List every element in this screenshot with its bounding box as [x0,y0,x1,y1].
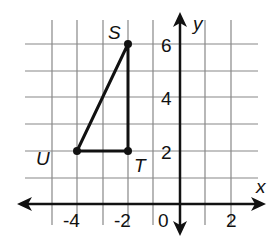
y-tick-4: 4 [161,88,172,109]
x-tick-neg4: -4 [63,210,80,231]
x-tick-neg2: -2 [114,210,131,231]
x-tick-2: 2 [226,210,237,231]
y-tick-2: 2 [161,142,172,163]
label-t: T [134,155,147,176]
x-axis-label: x [255,176,267,197]
y-axis-label: y [191,13,204,34]
coordinate-plane: S T U y x 6 4 2 -4 -2 0 2 [0,0,276,246]
label-u: U [36,148,50,169]
point-t [124,147,132,155]
y-tick-6: 6 [161,35,172,56]
label-s: S [108,22,121,43]
point-s [124,40,132,48]
x-tick-0: 0 [158,210,169,231]
x-axis [17,197,266,211]
point-u [73,147,81,155]
grid [25,20,258,225]
